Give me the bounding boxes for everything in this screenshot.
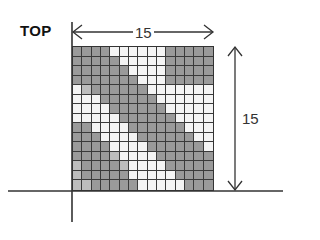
grid-cell xyxy=(148,47,157,57)
grid-cell xyxy=(185,142,194,152)
grid-cell xyxy=(176,152,185,162)
grid-cell xyxy=(204,104,213,114)
grid-cell xyxy=(138,171,147,181)
grid-cell xyxy=(176,133,185,143)
grid-cell xyxy=(73,180,82,190)
grid-cell xyxy=(176,95,185,105)
grid-cell xyxy=(129,180,138,190)
grid-cell xyxy=(176,85,185,95)
grid-cell xyxy=(92,104,101,114)
grid-cell xyxy=(73,85,82,95)
grid-cell xyxy=(185,133,194,143)
grid-cell xyxy=(120,133,129,143)
grid-cell xyxy=(138,95,147,105)
grid-cell xyxy=(110,152,119,162)
grid-cell xyxy=(138,57,147,67)
grid-cell xyxy=(194,152,203,162)
grid-cell xyxy=(176,66,185,76)
grid-cell xyxy=(73,47,82,57)
grid-cell xyxy=(82,57,91,67)
grid-cell xyxy=(82,114,91,124)
grid-cell xyxy=(166,114,175,124)
grid-cell xyxy=(194,104,203,114)
grid-cell xyxy=(157,161,166,171)
grid-cell xyxy=(92,76,101,86)
grid-cell xyxy=(73,95,82,105)
grid-cell xyxy=(92,180,101,190)
grid-cell xyxy=(110,76,119,86)
grid-cell xyxy=(194,142,203,152)
grid-cell xyxy=(73,66,82,76)
grid-cell xyxy=(176,123,185,133)
grid-cell xyxy=(101,171,110,181)
grid-cell xyxy=(120,180,129,190)
grid-cell xyxy=(110,95,119,105)
grid-cell xyxy=(204,133,213,143)
grid-cell xyxy=(194,161,203,171)
grid-cell xyxy=(110,47,119,57)
grid-cell xyxy=(92,171,101,181)
grid-cell xyxy=(194,66,203,76)
grid-cell xyxy=(101,57,110,67)
grid-cell xyxy=(157,104,166,114)
grid-cell xyxy=(138,76,147,86)
grid-cell xyxy=(157,171,166,181)
grid-cell xyxy=(129,123,138,133)
grid-cell xyxy=(73,123,82,133)
grid-cell xyxy=(204,180,213,190)
grid-cell xyxy=(92,161,101,171)
grid-cell xyxy=(194,76,203,86)
grid-cell xyxy=(73,104,82,114)
grid-cell xyxy=(204,95,213,105)
grid-cell xyxy=(148,142,157,152)
grid-cell xyxy=(129,76,138,86)
grid-cell xyxy=(148,85,157,95)
grid-cell xyxy=(82,152,91,162)
grid-cell xyxy=(110,57,119,67)
grid-cell xyxy=(204,161,213,171)
grid-cell xyxy=(82,142,91,152)
grid-cell xyxy=(110,133,119,143)
grid-cell xyxy=(204,57,213,67)
grid-cell xyxy=(82,104,91,114)
grid-cell xyxy=(92,123,101,133)
grid-cell xyxy=(110,161,119,171)
grid-cell xyxy=(194,85,203,95)
grid-cell xyxy=(101,142,110,152)
grid-cell xyxy=(185,114,194,124)
grid-cell xyxy=(138,133,147,143)
grid-cell xyxy=(185,152,194,162)
grid-cell xyxy=(204,152,213,162)
grid-cell xyxy=(157,85,166,95)
grid-cell xyxy=(101,95,110,105)
grid-cell xyxy=(120,152,129,162)
grid-cell xyxy=(166,171,175,181)
grid-cell xyxy=(82,171,91,181)
grid-cell xyxy=(185,85,194,95)
grid-cell xyxy=(120,95,129,105)
grid-cell xyxy=(176,142,185,152)
grid-cell xyxy=(138,114,147,124)
grid-cell xyxy=(176,57,185,67)
grid-cell xyxy=(185,161,194,171)
grid-cell xyxy=(204,47,213,57)
grid-cell xyxy=(138,66,147,76)
grid-cell xyxy=(157,180,166,190)
grid-cell xyxy=(120,57,129,67)
grid-cell xyxy=(73,142,82,152)
grid-cell xyxy=(129,57,138,67)
grid-cell xyxy=(92,57,101,67)
grid-cell xyxy=(101,123,110,133)
grid-cell xyxy=(73,161,82,171)
height-dimension-label: 15 xyxy=(240,111,261,126)
grid-cell xyxy=(148,123,157,133)
grid-cell xyxy=(129,85,138,95)
grid-cell xyxy=(82,85,91,95)
grid-cell xyxy=(73,76,82,86)
grid-cell xyxy=(129,152,138,162)
grid-cell xyxy=(82,76,91,86)
grid-cell xyxy=(166,95,175,105)
grid-cell xyxy=(138,47,147,57)
grid-cell xyxy=(204,114,213,124)
grid-cell xyxy=(138,85,147,95)
